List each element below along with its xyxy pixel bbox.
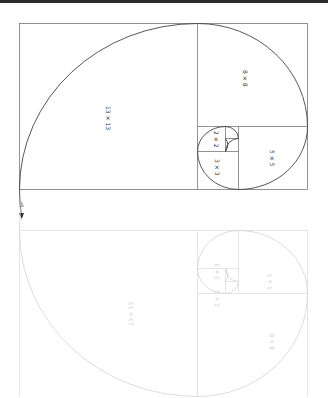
- fibonacci-spiral-diagram: 13 × 13 8 × 8 5 × 5 3 × 3 2 × 2 13 × 13 …: [0, 0, 328, 398]
- reflection-label-3x3: 3 × 3: [213, 263, 220, 280]
- square-grid: [20, 24, 308, 190]
- reflection-label-2x2: 2 × 2: [213, 290, 220, 307]
- reflection-label-5x5: 5 × 5: [266, 273, 273, 290]
- golden-spiral: [20, 24, 308, 217]
- label-3x3: 3 × 3: [214, 159, 221, 176]
- label-8x8: 8 × 8: [242, 70, 249, 87]
- label-5x5: 5 × 5: [269, 150, 276, 167]
- reflection-label-8x8: 8 × 8: [268, 333, 275, 350]
- reflection: [19, 201, 308, 397]
- reflection-labels: 13 × 13 8 × 8 5 × 5 3 × 3 2 × 2: [127, 263, 275, 350]
- outer-rectangle: [20, 24, 308, 190]
- reflection-label-13x13: 13 × 13: [127, 302, 134, 326]
- label-2x2: 2 × 2: [213, 131, 220, 148]
- label-13x13: 13 × 13: [105, 106, 112, 130]
